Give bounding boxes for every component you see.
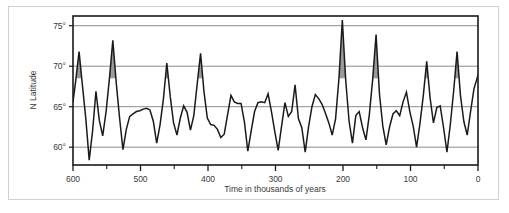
x-axis-ticks: 6005004003002001000 <box>66 165 481 184</box>
x-tick-label-300: 300 <box>268 174 282 184</box>
y-axis-ticks: 60°65°70°75° <box>53 21 73 152</box>
y-axis-title: N Latitude <box>28 70 38 109</box>
x-tick-label-500: 500 <box>133 174 147 184</box>
y-tick-label-60: 60° <box>53 142 66 152</box>
chart-canvas: 60°65°70°75° 6005004003002001000 N Latit… <box>0 0 509 213</box>
y-tick-label-65: 65° <box>53 102 66 112</box>
y-tick-label-75: 75° <box>53 21 66 31</box>
y-tick-label-70: 70° <box>53 61 66 71</box>
x-axis-title: Time in thousands of years <box>224 184 326 194</box>
x-tick-label-100: 100 <box>403 174 417 184</box>
x-tick-label-200: 200 <box>336 174 350 184</box>
x-tick-label-600: 600 <box>66 174 80 184</box>
chart-figure: 60°65°70°75° 6005004003002001000 N Latit… <box>0 0 509 213</box>
x-tick-label-0: 0 <box>476 174 481 184</box>
x-tick-label-400: 400 <box>201 174 215 184</box>
